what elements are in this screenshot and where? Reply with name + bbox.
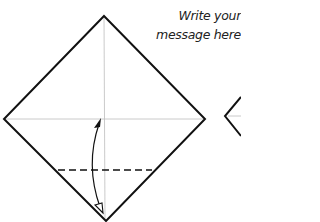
vertical-crease	[104, 16, 105, 220]
next-step-diamond	[225, 97, 241, 136]
annotation-note: Write your message here	[129, 6, 241, 44]
annotation-line-2: message here	[129, 25, 241, 44]
fold-arrow	[92, 124, 100, 207]
fold-arrow-head-filled	[94, 118, 101, 128]
annotation-line-1: Write your	[129, 6, 241, 25]
